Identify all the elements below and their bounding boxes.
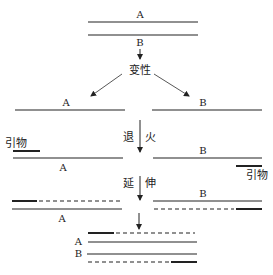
denature-label: 变性: [129, 63, 151, 77]
annealed-right: B 引物: [153, 145, 268, 182]
ext-left-a-label: A: [57, 213, 66, 224]
strand-a-label: A: [135, 9, 144, 20]
annealed-left: 引物 A: [5, 136, 123, 173]
strand-b-label: B: [136, 37, 143, 48]
annealed-a-label: A: [58, 162, 67, 173]
final-a-label: A: [74, 236, 83, 247]
ext-right-b-label: B: [199, 188, 206, 199]
primer-label-right: 引物: [246, 168, 268, 182]
extend-label-left: 延: [123, 177, 134, 190]
anneal-label-right: 火: [145, 131, 156, 144]
sep-a-label: A: [61, 97, 70, 108]
arrow-left-diagonal-icon: [91, 74, 122, 96]
separated-strands: A B: [15, 97, 262, 110]
extended-right: B: [153, 188, 262, 209]
arrow-right-diagonal-icon: [154, 74, 189, 96]
anneal-label-left: 退: [123, 131, 134, 144]
final-b-label: B: [75, 248, 82, 259]
original-dna: A B: [88, 9, 198, 48]
extend-label-right: 伸: [145, 177, 156, 190]
pcr-diagram: A B 变性 A B 退 火 引物 A B 引物 延 伸 A: [0, 0, 273, 275]
annealed-b-label: B: [199, 145, 206, 156]
extended-left: A: [12, 201, 122, 224]
sep-b-label: B: [199, 97, 206, 108]
primer-label-left: 引物: [5, 136, 27, 150]
final-products: A B: [74, 233, 197, 262]
